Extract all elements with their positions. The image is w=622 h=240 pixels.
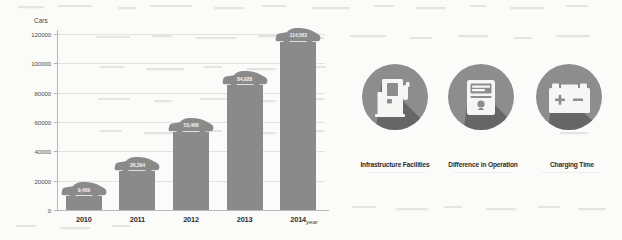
x-axis-line [57, 210, 329, 211]
x-tick-label: 2011 [115, 215, 159, 224]
bar-value-callout: 9,409 [61, 181, 107, 198]
icon-subtext: — — —— —— ———— — —— ——— —— ——— [354, 171, 440, 175]
feature-icons-panel: Infrastructure Facilities — — —— —— ————… [348, 0, 622, 240]
y-tick-label: 0 [48, 207, 51, 214]
icon-card-infrastructure-facilities[interactable]: Infrastructure Facilities — — —— —— ————… [354, 58, 440, 174]
bar-value-callout: 26,394 [114, 156, 160, 173]
icon-subtext: — — —— —— ———— — —— ——— —— ——— [440, 171, 526, 175]
icon-subtext: — — —— —— ———— — —— ——— —— ——— [528, 171, 614, 175]
bar-value-text: 114,563 [275, 32, 321, 38]
chart-plot-area: 020000400006000080000100000120000 9,4092… [57, 34, 325, 210]
icon-card-difference-in-operation[interactable]: Difference in Operation — — —— —— ———— —… [440, 58, 526, 174]
battery-icon [528, 58, 614, 136]
bar-group: 9,4092010 [62, 34, 106, 210]
bar-value-callout: 53,468 [168, 117, 214, 134]
bar-value-text: 84,928 [222, 76, 268, 82]
bar-group: 53,4682012 [169, 34, 213, 210]
x-tick-label: 2014 [276, 215, 320, 224]
ev-registrations-bar-chart: Cars year 020000400006000080000100000120… [0, 0, 345, 240]
y-tick-label: 100000 [31, 60, 51, 67]
icon-card-charging-time[interactable]: Charging Time — — —— —— ———— — —— ——— ——… [528, 58, 614, 174]
y-tick-label: 120000 [31, 31, 51, 38]
x-tick-label: 2012 [169, 215, 213, 224]
bar[interactable] [227, 85, 263, 210]
y-tick-label: 80000 [35, 89, 51, 96]
bar-group: 26,3942011 [115, 34, 159, 210]
bar[interactable] [66, 196, 102, 210]
x-tick-label: 2013 [223, 215, 267, 224]
y-tick-label: 40000 [35, 148, 51, 155]
y-tick-label: 60000 [35, 119, 51, 126]
icon-label: Difference in Operation [440, 161, 526, 168]
bar[interactable] [280, 42, 316, 210]
charging-station-icon [354, 58, 440, 136]
bar-group: 84,9282013 [223, 34, 267, 210]
bar[interactable] [119, 171, 155, 210]
icon-label: Charging Time [530, 161, 614, 168]
bar-value-text: 26,394 [114, 162, 160, 168]
y-tick-label: 20000 [35, 177, 51, 184]
y-axis-title: Cars [34, 17, 48, 24]
bar-group: 114,5632014 [276, 34, 320, 210]
bar-value-callout: 114,563 [275, 27, 321, 44]
y-axis-line [57, 30, 58, 211]
x-tick-label: 2010 [62, 215, 106, 224]
bar-value-text: 53,468 [168, 122, 214, 128]
control-meter-icon [440, 58, 526, 136]
icon-label: Infrastructure Facilities [350, 161, 440, 168]
bar-value-text: 9,409 [61, 187, 107, 193]
bar[interactable] [173, 132, 209, 210]
bar-value-callout: 84,928 [222, 70, 268, 87]
